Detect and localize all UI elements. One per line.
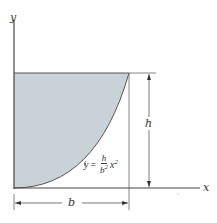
curve-equation: y = h b2 x2	[84, 154, 118, 175]
b-arrow-left	[15, 201, 21, 205]
h-arrow-top	[147, 74, 151, 80]
stray-dot	[177, 193, 178, 194]
y-axis-label: y	[10, 12, 16, 23]
equation-equals: =	[90, 159, 96, 170]
b-dimension-label: b	[68, 197, 75, 208]
equation-fraction: h b2	[100, 154, 108, 175]
diagram-canvas	[0, 0, 217, 223]
x-axis-label: x	[203, 182, 209, 193]
equation-denominator: b2	[100, 164, 108, 175]
h-arrow-bottom	[147, 181, 151, 187]
equation-variable: x2	[110, 158, 118, 170]
h-dimension-label: h	[145, 117, 152, 130]
equation-lhs: y	[84, 159, 88, 170]
b-arrow-right	[122, 201, 128, 205]
